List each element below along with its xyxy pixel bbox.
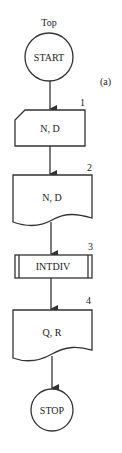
stop-label: STOP (40, 405, 65, 416)
node-4-number: 4 (86, 295, 91, 306)
node-2-label: N, D (42, 192, 61, 203)
node-3-predefined-process: 3 INTDIV (15, 241, 93, 278)
start-node: START (25, 33, 73, 81)
stop-node: STOP (31, 389, 73, 431)
figure-caption: (a) (100, 76, 111, 88)
node-2-output-document: 2 N, D (13, 162, 92, 226)
start-label: START (34, 52, 64, 63)
node-4-output-document: 4 Q, R (13, 295, 92, 361)
entry-label: Top (41, 17, 56, 28)
node-3-label: INTDIV (36, 261, 71, 272)
node-4-label: Q, R (43, 327, 62, 338)
node-2-number: 2 (87, 162, 92, 173)
node-3-number: 3 (88, 241, 93, 252)
flowchart: Top START (a) 1 N, D 2 N, D 3 INTDIV 4 Q… (0, 0, 122, 453)
node-1-label: N, D (40, 123, 59, 134)
node-1-number: 1 (80, 97, 85, 108)
